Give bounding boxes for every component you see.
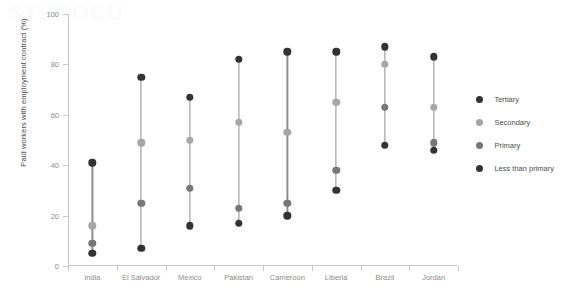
legend-swatch-icon bbox=[476, 119, 483, 126]
legend-item-label: Secondary bbox=[494, 118, 530, 127]
data-point[interactable] bbox=[430, 53, 437, 60]
connector-line bbox=[141, 77, 142, 248]
data-point[interactable] bbox=[89, 222, 96, 229]
data-point[interactable] bbox=[430, 104, 437, 111]
data-point[interactable] bbox=[137, 199, 144, 206]
y-axis-tick-label: 100 bbox=[46, 10, 59, 19]
y-axis-tick-label: 60 bbox=[51, 110, 59, 119]
x-axis-tick-label: Jordan bbox=[422, 273, 445, 282]
x-axis-tick bbox=[361, 266, 362, 271]
y-axis-tick bbox=[63, 64, 68, 65]
data-point[interactable] bbox=[186, 222, 193, 229]
y-axis-tick-label: 20 bbox=[51, 211, 59, 220]
x-axis-tick-label: Cameroon bbox=[270, 273, 305, 282]
legend-swatch-icon bbox=[476, 142, 483, 149]
x-axis-tick bbox=[68, 266, 69, 271]
x-axis-tick bbox=[166, 266, 167, 271]
x-axis-tick-label: El Salvador bbox=[122, 273, 160, 282]
y-axis-line bbox=[68, 14, 69, 266]
x-axis-tick-label: Brazil bbox=[375, 273, 394, 282]
x-axis-tick bbox=[409, 266, 410, 271]
x-axis-tick bbox=[263, 266, 264, 271]
data-point[interactable] bbox=[186, 93, 193, 100]
legend-swatch-icon bbox=[476, 165, 483, 172]
x-axis-tick bbox=[312, 266, 313, 271]
y-axis-tick-label: 80 bbox=[51, 60, 59, 69]
data-point[interactable] bbox=[381, 43, 388, 50]
x-axis-tick-label: Mexico bbox=[178, 273, 202, 282]
data-point[interactable] bbox=[137, 139, 144, 146]
plot-area: 020406080100IndiaEl SalvadorMexicoPakist… bbox=[68, 14, 458, 266]
legend-item-label: Tertiary bbox=[494, 95, 519, 104]
data-point[interactable] bbox=[89, 240, 96, 247]
x-axis-tick-label: Liberia bbox=[325, 273, 348, 282]
data-point[interactable] bbox=[137, 245, 144, 252]
data-point[interactable] bbox=[332, 167, 339, 174]
legend-swatch-icon bbox=[476, 96, 483, 103]
data-point[interactable] bbox=[137, 73, 144, 80]
x-axis-tick-label: India bbox=[84, 273, 100, 282]
data-point[interactable] bbox=[235, 219, 242, 226]
data-point[interactable] bbox=[284, 199, 291, 206]
y-axis-tick bbox=[63, 165, 68, 166]
data-point[interactable] bbox=[186, 136, 193, 143]
y-axis-tick bbox=[63, 14, 68, 15]
data-point[interactable] bbox=[89, 250, 96, 257]
connector-line bbox=[189, 97, 190, 226]
data-point[interactable] bbox=[332, 48, 339, 55]
chart-legend: TertiarySecondaryPrimaryLess than primar… bbox=[476, 88, 554, 180]
legend-item-secondary[interactable]: Secondary bbox=[476, 111, 554, 134]
data-point[interactable] bbox=[235, 119, 242, 126]
legend-item-primary[interactable]: Primary bbox=[476, 134, 554, 157]
data-point[interactable] bbox=[430, 146, 437, 153]
connector-line bbox=[238, 59, 239, 223]
data-point[interactable] bbox=[332, 187, 339, 194]
data-point[interactable] bbox=[186, 184, 193, 191]
legend-item-label: Primary bbox=[494, 141, 520, 150]
chart-container: STUDOCU Paid workers with employment con… bbox=[0, 0, 572, 301]
x-axis-tick bbox=[117, 266, 118, 271]
data-point[interactable] bbox=[381, 104, 388, 111]
x-axis-tick-label: Pakistan bbox=[224, 273, 253, 282]
legend-item-tertiary[interactable]: Tertiary bbox=[476, 88, 554, 111]
legend-item-label: Less than primary bbox=[494, 164, 554, 173]
data-point[interactable] bbox=[430, 139, 437, 146]
data-point[interactable] bbox=[332, 99, 339, 106]
x-axis-tick bbox=[214, 266, 215, 271]
y-axis-title: Paid workers with employment contract (%… bbox=[19, 8, 28, 178]
legend-item-less-than-primary[interactable]: Less than primary bbox=[476, 157, 554, 180]
data-point[interactable] bbox=[381, 61, 388, 68]
y-axis-tick-label: 0 bbox=[55, 262, 59, 271]
y-axis-tick-label: 40 bbox=[51, 161, 59, 170]
x-axis-tick bbox=[458, 266, 459, 271]
y-axis-tick bbox=[63, 115, 68, 116]
data-point[interactable] bbox=[89, 159, 96, 166]
data-point[interactable] bbox=[284, 212, 291, 219]
data-point[interactable] bbox=[284, 129, 291, 136]
y-axis-tick bbox=[63, 216, 68, 217]
data-point[interactable] bbox=[235, 204, 242, 211]
data-point[interactable] bbox=[381, 141, 388, 148]
data-point[interactable] bbox=[235, 56, 242, 63]
data-point[interactable] bbox=[284, 48, 291, 55]
